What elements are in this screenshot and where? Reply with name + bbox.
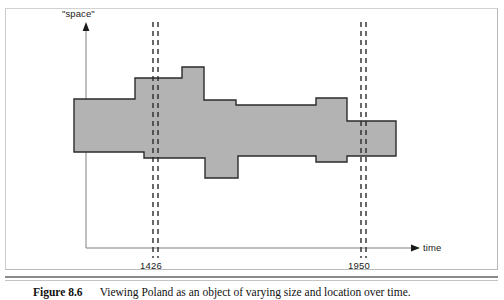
poland-extent-polygon [74, 67, 396, 178]
figure-number: Figure 8.6 [33, 286, 83, 298]
x-axis-arrow-icon [411, 245, 420, 252]
figure-caption-text: Viewing Poland as an object of varying s… [100, 286, 411, 298]
tick-label-1950: 1950 [348, 260, 370, 271]
space-time-plot [0, 0, 504, 272]
y-axis-arrow-icon [83, 22, 90, 31]
caption-separator-thick [5, 276, 498, 278]
tick-label-1426: 1426 [140, 260, 162, 271]
x-axis-label: time [423, 242, 441, 253]
figure-caption: Figure 8.6Viewing Poland as an object of… [33, 286, 498, 299]
figure-8-6: "space" time 1426 1950 Figure 8.6Viewing… [0, 0, 504, 300]
y-axis-label: "space" [62, 8, 95, 19]
caption-separator-thin [5, 280, 498, 281]
